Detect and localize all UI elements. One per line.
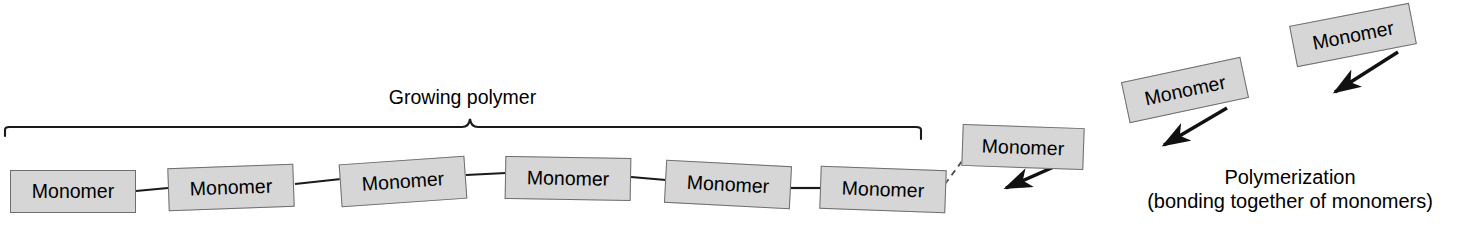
free-monomer-3-label: Monomer — [1310, 16, 1395, 54]
polymerization-caption: Polymerization (bonding together of mono… — [1120, 166, 1460, 213]
chain-monomer-4-label: Monomer — [527, 166, 610, 190]
chain-monomer-2: Monomer — [167, 164, 294, 211]
chain-monomer-3-label: Monomer — [361, 167, 445, 196]
chain-monomer-6: Monomer — [819, 166, 946, 213]
chain-monomer-3: Monomer — [339, 156, 468, 208]
polymerization-caption-line-1: Polymerization — [1120, 166, 1460, 190]
chain-monomer-4: Monomer — [505, 156, 632, 201]
chain-monomer-2-label: Monomer — [189, 175, 272, 201]
chain-monomer-1-label: Monomer — [32, 180, 114, 203]
chain-monomer-5: Monomer — [664, 160, 792, 210]
growing-polymer-label: Growing polymer — [0, 86, 925, 109]
chain-monomer-1: Monomer — [10, 170, 136, 213]
free-monomer-1: Monomer — [961, 124, 1084, 170]
free-monomer-1-label: Monomer — [981, 134, 1064, 160]
chain-monomer-6-label: Monomer — [841, 177, 924, 203]
polymerization-diagram: Growing polymer Monomer Monomer Monomer … — [0, 0, 1471, 234]
chain-monomer-5-label: Monomer — [686, 171, 769, 198]
polymerization-caption-line-2: (bonding together of monomers) — [1120, 190, 1460, 214]
free-monomer-2-label: Monomer — [1142, 70, 1227, 110]
growing-polymer-brace — [5, 119, 921, 139]
